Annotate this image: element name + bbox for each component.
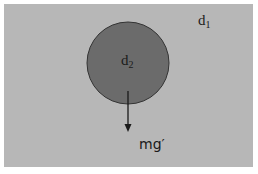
fluid-density-subscript: 1 [206,19,211,30]
apparent-weight-label: mg′ [139,137,165,151]
arrow-down-icon [125,124,132,132]
sphere-density-subscript: 2 [129,59,134,70]
sphere-density-label: d2 [121,53,134,70]
sphere-density-symbol: d [121,52,129,68]
fluid-density-symbol: d [198,12,206,28]
fluid-density-label: d1 [198,13,211,30]
diagram-canvas [0,0,258,174]
